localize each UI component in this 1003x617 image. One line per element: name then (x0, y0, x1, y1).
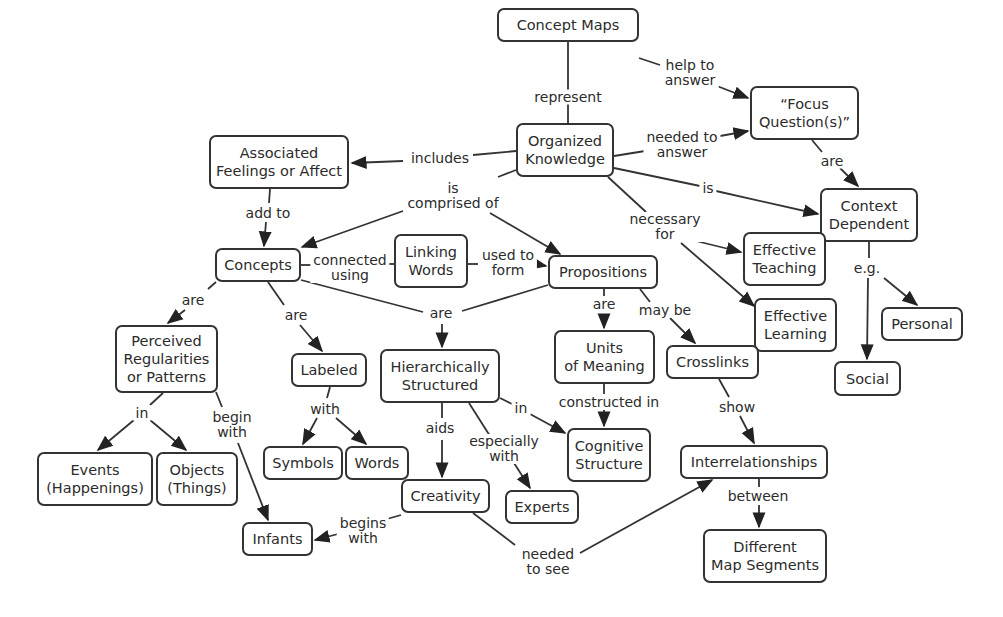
linking-phrase: are (282, 308, 311, 323)
edge-help-to-answer-b (717, 86, 748, 98)
edge-with-a (327, 387, 330, 398)
linking-phrase: are (818, 154, 847, 169)
edge-necessary-a (608, 177, 646, 212)
concept-node-cognitive-structure[interactable]: Cognitive Structure (567, 428, 651, 482)
edge-begins-with-b (315, 534, 338, 540)
linking-phrase: begin with (209, 410, 254, 440)
linking-phrase: is comprised of (404, 181, 501, 211)
linking-phrase: aids (423, 421, 458, 436)
edge-needed-to-answer-b (720, 131, 748, 136)
concept-node-symbols[interactable]: Symbols (263, 446, 343, 480)
concept-node-words[interactable]: Words (345, 446, 409, 480)
linking-phrase: represent (531, 90, 604, 105)
edge-are-labeled-a (268, 282, 284, 305)
linking-phrase: help to answer (662, 58, 719, 88)
edge-in-events (98, 420, 134, 450)
edge-eg-personal (884, 278, 917, 305)
edge-needed-to-answer-a (614, 151, 645, 156)
linking-phrase: are (427, 306, 456, 321)
linking-phrase: necessary for (626, 212, 703, 242)
linking-phrase: used to form (479, 248, 537, 278)
edge-is-a (614, 168, 700, 186)
edge-comprised-b (302, 211, 403, 247)
concept-node-different-map-segments[interactable]: Different Map Segments (703, 529, 827, 583)
edge-is-b (716, 191, 818, 214)
concept-node-context-dependent[interactable]: Context Dependent (820, 188, 918, 242)
edge-in-a (150, 393, 163, 405)
linking-phrase: with (307, 402, 343, 417)
linking-phrase: begins with (337, 516, 389, 546)
edge-are-perceived-b (168, 310, 185, 323)
concept-node-hierarchically-structured[interactable]: Hierarchically Structured (380, 349, 500, 403)
concept-node-events[interactable]: Events (Happenings) (37, 452, 153, 506)
edge-especially-b (514, 463, 530, 488)
concept-node-effective-learning[interactable]: Effective Learning (754, 298, 837, 352)
linking-phrase: includes (408, 151, 472, 166)
edge-help-to-answer-a (639, 58, 660, 65)
edge-in-objects (150, 420, 186, 450)
concept-node-perceived-regularities[interactable]: Perceived Regularities or Patterns (115, 325, 218, 393)
linking-phrase: needed to answer (644, 130, 721, 160)
concept-map-canvas: Concept MapsOrganized KnowledgeAssociate… (0, 0, 1003, 617)
edge-are-labeled-b (300, 325, 322, 351)
linking-phrase: especially with (466, 434, 542, 464)
edge-may-be-a (640, 289, 650, 302)
linking-phrase: e.g. (851, 261, 883, 276)
linking-phrase: connected using (310, 253, 389, 283)
edge-may-be-b (670, 318, 695, 343)
edge-especially-a (469, 403, 490, 436)
concept-node-objects[interactable]: Objects (Things) (156, 452, 238, 506)
edge-in-cog-b (530, 414, 565, 433)
linking-phrase: between (725, 489, 792, 504)
edge-are-focus-b (840, 168, 858, 186)
linking-phrase: constructed in (556, 395, 662, 410)
concept-node-propositions[interactable]: Propositions (548, 255, 658, 289)
edge-are-perceived-a (208, 282, 216, 289)
concept-node-focus-questions[interactable]: “Focus Question(s)” (750, 86, 859, 140)
edge-add-to-b (264, 222, 266, 246)
linking-phrase: are (179, 293, 208, 308)
edge-includes-a (473, 151, 516, 155)
edge-used-to-form-b (536, 264, 546, 266)
concept-node-units-of-meaning[interactable]: Units of Meaning (554, 330, 655, 384)
concept-node-interrelationships[interactable]: Interrelationships (680, 445, 828, 479)
linking-phrase: may be (636, 303, 694, 318)
concept-node-concepts[interactable]: Concepts (215, 248, 301, 282)
edge-show-b (740, 416, 754, 443)
edge-includes-b (352, 161, 403, 163)
concept-node-linking-words[interactable]: Linking Words (394, 234, 468, 288)
edge-with-words (336, 418, 366, 444)
concept-node-experts[interactable]: Experts (505, 490, 579, 524)
concept-node-organized-knowledge[interactable]: Organized Knowledge (516, 123, 614, 177)
linking-phrase: in (512, 401, 531, 416)
edge-are-hier-b (462, 285, 548, 311)
concept-node-effective-teaching[interactable]: Effective Teaching (743, 232, 826, 286)
concept-node-creativity[interactable]: Creativity (401, 479, 490, 513)
linking-phrase: in (133, 406, 152, 421)
edge-with-symbols (303, 418, 317, 444)
concept-node-crosslinks[interactable]: Crosslinks (666, 345, 759, 379)
linking-phrase: is (699, 181, 716, 196)
concept-node-concept-maps[interactable]: Concept Maps (497, 8, 639, 42)
linking-phrase: needed to see (519, 547, 578, 577)
linking-phrase: add to (243, 206, 294, 221)
edge-eg-social (867, 278, 868, 359)
edge-in-cog-a (500, 398, 512, 404)
edge-add-to-a (269, 189, 270, 203)
edge-show-a (719, 379, 729, 397)
concept-node-labeled[interactable]: Labeled (291, 353, 367, 387)
edge-begin-with-a (216, 392, 222, 407)
edge-needed-to-see-b (580, 480, 712, 553)
edge-are-focus-a (812, 140, 822, 152)
linking-phrase: show (716, 400, 758, 415)
concept-node-associated-feelings[interactable]: Associated Feelings or Affect (209, 135, 349, 189)
concept-node-social[interactable]: Social (834, 361, 901, 396)
linking-phrase: are (590, 297, 619, 312)
edge-comprised-a (498, 170, 516, 177)
concept-node-infants[interactable]: Infants (242, 522, 313, 556)
concept-node-personal[interactable]: Personal (881, 307, 963, 341)
